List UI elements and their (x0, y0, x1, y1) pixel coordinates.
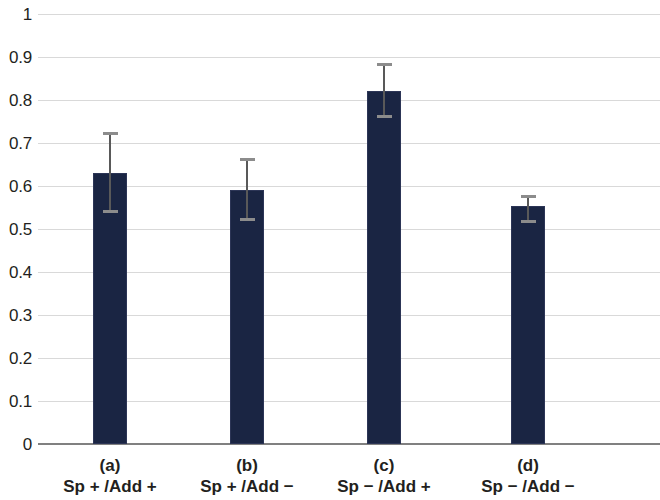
gridline (38, 14, 660, 15)
category-name: Sp − /Add − (438, 476, 618, 498)
y-axis-tick-label: 0.5 (0, 221, 32, 238)
y-axis-tick-label: 0.3 (0, 307, 32, 324)
bar (511, 206, 545, 444)
error-bar-cap-upper (103, 132, 118, 135)
error-bar-cap-lower (103, 210, 118, 213)
error-bar-cap-upper (377, 63, 392, 66)
y-axis-tick-label: 0 (0, 436, 32, 453)
y-axis-tick-label: 0.9 (0, 49, 32, 66)
bar (230, 190, 264, 444)
gridline (38, 143, 660, 144)
y-axis-tick-label: 0.1 (0, 393, 32, 410)
error-bar (377, 63, 392, 118)
error-bar (103, 132, 118, 213)
gridline (38, 186, 660, 187)
error-bar-cap-lower (521, 220, 536, 223)
y-axis-tick-label: 1 (0, 6, 32, 23)
error-bar-cap-lower (377, 115, 392, 118)
error-bar (521, 195, 536, 223)
gridline (38, 272, 660, 273)
gridline (38, 401, 660, 402)
y-axis-tick-label: 0.2 (0, 350, 32, 367)
error-bar-stem (246, 158, 248, 221)
error-bar-stem (383, 63, 385, 118)
plot-area (38, 0, 660, 500)
gridline (38, 229, 660, 230)
x-axis-line (38, 443, 660, 445)
gridline (38, 358, 660, 359)
error-bar-cap-upper (240, 158, 255, 161)
bar (367, 91, 401, 444)
bar-chart: 00.10.20.30.40.50.60.70.80.91 (a)Sp + /A… (0, 0, 660, 500)
gridline (38, 57, 660, 58)
y-axis-tick-labels: 00.10.20.30.40.50.60.70.80.91 (0, 0, 32, 500)
y-axis-tick-label: 0.4 (0, 264, 32, 281)
y-axis-tick-label: 0.7 (0, 135, 32, 152)
gridline (38, 315, 660, 316)
error-bar (240, 158, 255, 221)
x-axis-category-label: (d)Sp − /Add − (438, 455, 618, 498)
category-key: (d) (438, 455, 618, 476)
error-bar-cap-lower (240, 218, 255, 221)
error-bar-cap-upper (521, 195, 536, 198)
error-bar-stem (527, 195, 529, 223)
error-bar-stem (109, 132, 111, 213)
gridline (38, 100, 660, 101)
y-axis-tick-label: 0.6 (0, 178, 32, 195)
y-axis-tick-label: 0.8 (0, 92, 32, 109)
bar (93, 173, 127, 444)
